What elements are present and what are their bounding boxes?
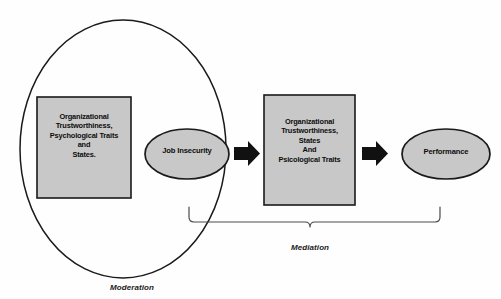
arrow-2 bbox=[362, 141, 388, 166]
ellipse-performance-shape bbox=[402, 129, 490, 179]
box-left-shape bbox=[37, 97, 131, 198]
box-middle-shape bbox=[264, 95, 355, 205]
ellipse-job-insecurity-shape bbox=[145, 129, 229, 179]
arrow-1 bbox=[234, 141, 260, 166]
diagram-shapes bbox=[0, 0, 501, 299]
mediation-brace bbox=[189, 207, 440, 227]
diagram-canvas: Organizational Trustworthiness, Psycholo… bbox=[0, 0, 501, 299]
